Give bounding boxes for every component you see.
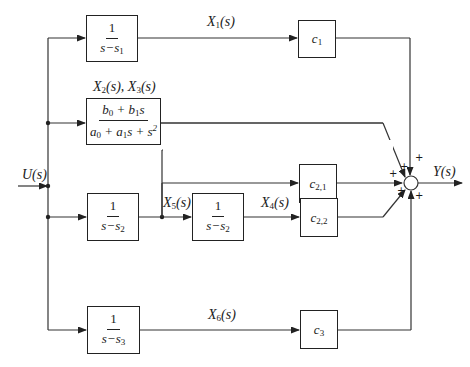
sum-sign-top-left: + — [400, 162, 408, 172]
block-tf3: 1s−s2 — [87, 193, 139, 241]
sum-sign-left: + — [389, 169, 397, 179]
signal-x6-label: X6(s) — [208, 308, 236, 323]
signal-x2-x3-label: X2(s), X3(s) — [93, 80, 156, 95]
block-tf1: 1s−s1 — [86, 15, 138, 62]
input-label: U(s) — [22, 168, 47, 182]
signal-x1-label: X1(s) — [207, 15, 235, 30]
signal-x5-label: X5(s) — [163, 196, 191, 211]
block-tf5: 1s−s3 — [87, 306, 140, 354]
block-tf4: 1s−s2 — [192, 193, 244, 241]
block-tf2: b0 + b1s a0 + a1s + s2 — [86, 98, 161, 145]
gain-c22: c2,2 — [300, 198, 338, 237]
sum-sign-bottom: + — [415, 191, 423, 201]
gain-c3: c3 — [300, 310, 338, 349]
signal-x4-label: X4(s) — [261, 196, 289, 211]
gain-c1: c1 — [298, 20, 336, 58]
output-label: Y(s) — [433, 165, 456, 179]
sum-sign-top: + — [415, 153, 423, 163]
sum-sign-bottom-left: + — [397, 186, 405, 196]
